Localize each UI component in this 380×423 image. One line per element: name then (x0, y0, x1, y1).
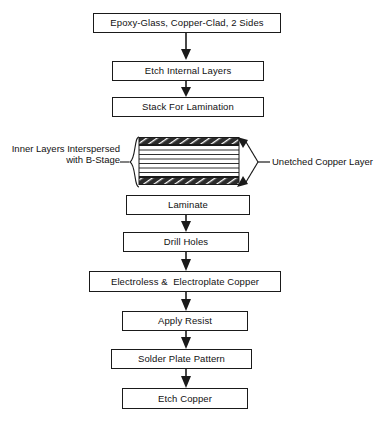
flow-node-etch-copper[interactable]: Etch Copper (122, 388, 248, 409)
bottom-copper-band (139, 178, 239, 185)
connector-arrow-electroless-to-resist (178, 292, 194, 312)
flow-node-epoxy-glass[interactable]: Epoxy-Glass, Copper-Clad, 2 Sides (93, 13, 281, 33)
connector-arrow-resist-to-solder (178, 331, 194, 350)
connector-arrow-epoxy-to-etch (178, 33, 194, 61)
annotation-inner-layers-label: Inner Layers Interspersed with B-Stage (10, 143, 120, 165)
arrowhead-top-copper (237, 137, 248, 148)
lamination-stack-illustration (138, 136, 243, 188)
flow-node-stack-for-lamination[interactable]: Stack For Lamination (112, 97, 264, 117)
top-copper-band (139, 138, 239, 145)
connector-arrow-etch-to-stack (178, 81, 194, 98)
annotation-unetched-copper-label: Unetched Copper Layer (272, 156, 380, 167)
inner-layers-leader-line (120, 160, 130, 164)
flow-node-solder-plate-pattern[interactable]: Solder Plate Pattern (111, 349, 252, 369)
flow-node-etch-internal-layers[interactable]: Etch Internal Layers (112, 61, 264, 81)
arrowhead-bottom-copper (237, 176, 248, 187)
flow-node-laminate[interactable]: Laminate (126, 195, 250, 215)
connector-arrow-solder-to-etch-copper (178, 369, 194, 389)
unetched-copper-pointer-arrows (236, 136, 272, 188)
connector-arrow-laminate-to-drill (178, 215, 194, 233)
flow-node-drill-holes[interactable]: Drill Holes (123, 232, 249, 252)
connector-arrow-drill-to-electroless (178, 252, 194, 272)
flow-node-apply-resist[interactable]: Apply Resist (122, 311, 248, 331)
process-flow-diagram: Epoxy-Glass, Copper-Clad, 2 Sides Etch I… (0, 0, 380, 423)
flow-node-electroless-electroplate-copper[interactable]: Electroless & Electroplate Copper (89, 271, 281, 292)
